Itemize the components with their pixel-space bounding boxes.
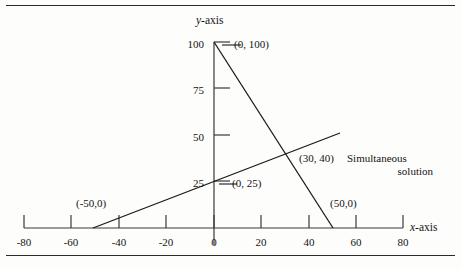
coordinate-plot xyxy=(0,0,461,269)
simultaneous-solution-label: Simultaneoussolution xyxy=(347,152,433,178)
x-axis-ticks xyxy=(24,215,403,228)
point-label-0-25: (0, 25) xyxy=(232,177,261,190)
point-label-neg50-0: (-50,0) xyxy=(76,197,106,210)
x-tick-label-0: 0 xyxy=(196,236,232,249)
x-axis-label: x-axis xyxy=(410,221,437,234)
y-tick-label-75: 75 xyxy=(176,84,204,97)
x-tick-label-40: 40 xyxy=(291,236,327,249)
x-tick-label-80: 80 xyxy=(385,236,421,249)
y-tick-label-100: 100 xyxy=(176,38,204,51)
x-axis-label-suffix: -axis xyxy=(415,221,437,233)
x-tick-label--80: -80 xyxy=(6,236,42,249)
point-label-0-100: (0, 100) xyxy=(234,38,269,51)
point-label-30-40: (30, 40) xyxy=(299,152,334,165)
descending-line xyxy=(214,42,333,228)
x-tick-label--20: -20 xyxy=(148,236,184,249)
x-tick-label-20: 20 xyxy=(243,236,279,249)
y-axis-label-suffix: -axis xyxy=(201,14,223,26)
figure-container: y-axis x-axis 100 75 50 25 -80 -60 -40 -… xyxy=(0,0,461,269)
x-tick-label-60: 60 xyxy=(338,236,374,249)
y-tick-label-50: 50 xyxy=(176,131,204,144)
solution-line-1: Simultaneous xyxy=(347,152,407,164)
x-tick-label--60: -60 xyxy=(53,236,89,249)
x-tick-label--40: -40 xyxy=(101,236,137,249)
y-tick-label-25: 25 xyxy=(176,177,204,190)
y-axis-label: y-axis xyxy=(196,14,223,27)
solution-line-2: solution xyxy=(347,165,433,178)
point-label-50-0: (50,0) xyxy=(330,197,357,210)
